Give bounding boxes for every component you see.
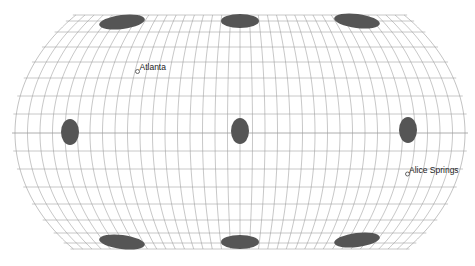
meridian-line	[115, 15, 149, 249]
meridian-line	[276, 15, 290, 249]
tissot-ellipse	[333, 11, 380, 31]
meridian-line	[90, 15, 131, 249]
meridian-line	[340, 15, 377, 249]
meridian-line	[304, 15, 328, 249]
world-map: Atlanta Alice Springs	[0, 0, 475, 266]
meridian-line	[267, 15, 277, 249]
tissot-ellipse	[61, 119, 79, 145]
meridian-line	[249, 15, 252, 249]
city-alice-springs[interactable]: Alice Springs	[406, 165, 459, 177]
meridian-line	[178, 15, 195, 249]
meridian-line	[322, 15, 352, 249]
city-label-alice-springs: Alice Springs	[409, 165, 459, 175]
city-label-atlanta: Atlanta	[140, 62, 167, 72]
tissot-indicatrices	[61, 11, 417, 252]
meridian-line	[128, 15, 158, 249]
meridian-line	[215, 15, 222, 249]
tissot-ellipse	[221, 14, 259, 28]
meridian-line	[228, 15, 231, 249]
tissot-ellipse	[399, 117, 417, 143]
meridian-line	[331, 15, 365, 249]
tissot-ellipse	[221, 235, 259, 249]
meridian-line	[203, 15, 213, 249]
meridian-line	[258, 15, 265, 249]
city-atlanta[interactable]: Atlanta	[136, 62, 167, 74]
meridian-line	[286, 15, 303, 249]
meridian-line	[190, 15, 204, 249]
meridian-line	[103, 15, 140, 249]
meridian-line	[165, 15, 185, 249]
meridian-line	[349, 15, 390, 249]
tissot-ellipse	[231, 118, 249, 144]
meridian-line	[153, 15, 177, 249]
meridian-line	[295, 15, 315, 249]
